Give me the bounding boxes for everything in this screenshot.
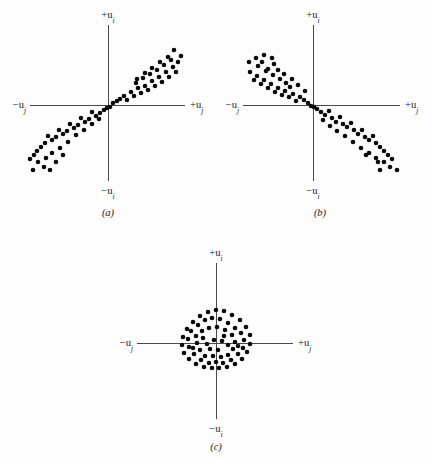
- data-point: [236, 352, 241, 357]
- axis-label-negative-uj-a: −uj: [13, 99, 26, 115]
- panels-group: +ui−ui+uj−uj(a)+ui−ui+uj−uj(b)+ui−ui+uj−…: [13, 9, 419, 453]
- data-point: [90, 122, 95, 127]
- data-point: [345, 125, 350, 130]
- data-point: [256, 64, 261, 69]
- data-point: [207, 326, 212, 331]
- data-point: [66, 140, 71, 145]
- data-point: [222, 309, 227, 314]
- data-point: [247, 60, 252, 65]
- panel-b: +ui−ui+uj−uj(b): [226, 9, 419, 219]
- data-point: [388, 165, 393, 170]
- data-point: [327, 109, 332, 114]
- data-point: [158, 60, 163, 65]
- data-point: [341, 122, 346, 127]
- data-point: [233, 326, 238, 331]
- data-point: [273, 90, 278, 95]
- data-point: [50, 138, 55, 143]
- data-point: [42, 165, 47, 170]
- data-point: [48, 168, 53, 173]
- data-point: [136, 86, 141, 91]
- data-point: [248, 70, 253, 75]
- data-point: [206, 310, 211, 315]
- data-point: [181, 335, 186, 340]
- data-point: [68, 122, 73, 127]
- data-point: [194, 334, 199, 339]
- data-point: [83, 120, 88, 125]
- data-point: [32, 153, 37, 158]
- data-point: [272, 62, 277, 67]
- data-point: [386, 153, 391, 158]
- data-point: [179, 54, 184, 59]
- data-point: [186, 337, 191, 342]
- data-point: [39, 145, 44, 150]
- data-point: [239, 331, 244, 336]
- data-point: [376, 160, 381, 165]
- data-point: [57, 128, 62, 133]
- axis-label-positive-uj-b: +uj: [405, 99, 418, 115]
- axis-label-positive-ui-b: +ui: [306, 9, 319, 25]
- data-point: [98, 111, 103, 116]
- data-point: [118, 97, 123, 102]
- data-point: [218, 317, 223, 322]
- data-point: [223, 328, 228, 333]
- data-point: [240, 357, 245, 362]
- data-point: [319, 110, 324, 115]
- data-point: [230, 333, 235, 338]
- data-point: [351, 140, 356, 145]
- panel-caption-c: (c): [210, 441, 222, 453]
- data-point: [276, 86, 281, 91]
- data-point: [134, 81, 139, 86]
- data-point: [36, 160, 41, 165]
- data-point: [225, 365, 230, 370]
- data-point: [352, 128, 357, 133]
- data-point: [244, 325, 249, 330]
- data-point: [139, 91, 144, 96]
- data-point: [191, 346, 196, 351]
- data-point: [334, 120, 339, 125]
- data-point: [195, 341, 200, 346]
- axis-label-positive-ui-a: +ui: [101, 9, 114, 25]
- data-point: [359, 146, 364, 151]
- data-point: [226, 343, 231, 348]
- data-point: [294, 99, 299, 104]
- data-point: [271, 73, 276, 78]
- data-point: [291, 92, 296, 97]
- data-point: [390, 157, 395, 162]
- data-point: [153, 84, 158, 89]
- data-point: [35, 149, 40, 154]
- data-points-b: [247, 53, 400, 173]
- data-point: [150, 79, 155, 84]
- data-point: [189, 329, 194, 334]
- data-point: [212, 338, 217, 343]
- data-point: [395, 168, 400, 173]
- data-point: [141, 76, 146, 81]
- data-point: [79, 116, 84, 121]
- data-point: [187, 357, 192, 362]
- data-point: [323, 113, 328, 118]
- data-point: [160, 80, 165, 85]
- data-points-a: [28, 48, 184, 173]
- axis-label-negative-uj-b: −uj: [226, 99, 239, 115]
- data-point: [28, 157, 33, 162]
- data-point: [54, 135, 59, 140]
- data-point: [276, 68, 281, 73]
- data-point: [167, 75, 172, 80]
- data-point: [146, 88, 151, 93]
- data-point: [135, 77, 140, 82]
- data-point: [335, 129, 340, 134]
- data-point: [266, 67, 271, 72]
- data-point: [150, 66, 155, 71]
- data-point: [90, 110, 95, 115]
- panel-c: +ui−ui+uj−uj(c): [120, 247, 312, 453]
- data-point: [132, 94, 137, 99]
- data-point: [111, 101, 116, 106]
- data-point: [248, 333, 253, 338]
- axis-label-negative-uj-c: −uj: [120, 337, 133, 353]
- data-point: [242, 338, 247, 343]
- data-point: [303, 89, 308, 94]
- data-point: [54, 160, 59, 165]
- data-point: [44, 156, 49, 161]
- data-point: [238, 318, 243, 323]
- panel-caption-a: (a): [102, 207, 115, 219]
- data-point: [364, 153, 369, 158]
